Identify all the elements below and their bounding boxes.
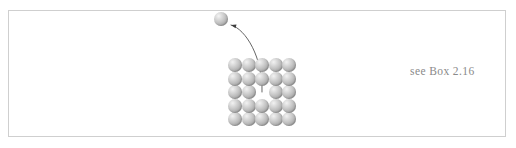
lattice-atom — [242, 112, 256, 126]
lattice-atom — [228, 85, 242, 99]
lattice-atom — [269, 72, 283, 86]
lattice-atom — [269, 112, 283, 126]
figure-caption: see Box 2.16 — [410, 65, 475, 77]
lattice-atom — [228, 99, 242, 113]
lattice-atom — [255, 72, 269, 86]
lattice-atom — [242, 99, 256, 113]
ejected-atom — [214, 12, 228, 26]
lattice-atom — [255, 58, 269, 72]
lattice-atom — [269, 85, 283, 99]
lattice-atom — [228, 58, 242, 72]
figure-canvas: see Box 2.16 — [0, 0, 516, 148]
lattice-atom — [282, 99, 296, 113]
lattice-atom — [255, 112, 269, 126]
lattice-atom — [282, 58, 296, 72]
lattice-atom — [228, 72, 242, 86]
lattice-atom — [282, 112, 296, 126]
lattice-atom — [228, 112, 242, 126]
lattice-atom — [269, 99, 283, 113]
lattice-atom — [269, 58, 283, 72]
lattice-atom — [282, 85, 296, 99]
lattice-atom — [255, 99, 269, 113]
lattice-atom — [242, 72, 256, 86]
lattice-atom — [242, 58, 256, 72]
crystal-lattice — [228, 58, 296, 126]
lattice-atom — [242, 85, 256, 99]
lattice-atom — [282, 72, 296, 86]
